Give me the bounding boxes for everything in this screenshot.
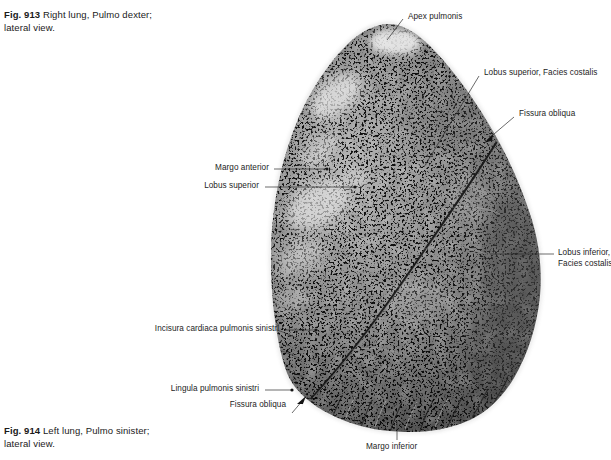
label-margo-anterior: Margo anterior	[151, 163, 269, 174]
figure-title-914: Left lung, Pulmo sinister;	[43, 425, 150, 436]
label-lobus-superior: Lobus superior	[141, 181, 259, 192]
label-lobus-superior-facies-costalis: Lobus superior, Facies costalis	[484, 68, 598, 79]
label-lobus-inferior-line1: Lobus inferior,	[558, 248, 611, 259]
figure-caption-top: Fig. 913 Right lung, Pulmo dexter; later…	[4, 8, 152, 34]
figure-title-913: Right lung, Pulmo dexter;	[43, 9, 152, 20]
label-lingula-pulmonis-sinistri: Lingula pulmonis sinistri	[160, 384, 259, 395]
figure-number-913: Fig. 913	[4, 9, 40, 20]
label-fissura-obliqua-right: Fissura obliqua	[519, 109, 575, 120]
label-apex-pulmonis: Apex pulmonis	[408, 12, 462, 23]
label-lobus-inferior-facies-costalis: Lobus inferior, Facies costalis	[558, 248, 611, 269]
anatomy-figure-plate: Fig. 913 Right lung, Pulmo dexter; later…	[0, 0, 611, 460]
figure-caption-bottom: Fig. 914 Left lung, Pulmo sinister; late…	[4, 424, 150, 450]
label-fissura-obliqua-bottom: Fissura obliqua	[216, 400, 286, 411]
figure-number-914: Fig. 914	[4, 425, 40, 436]
label-lobus-inferior-line2: Facies costalis	[558, 259, 611, 270]
label-incisura-cardiaca-pulmonis-sinistri: Incisura cardiaca pulmonis sinistri	[131, 324, 279, 335]
label-margo-inferior: Margo inferior	[366, 442, 417, 453]
figure-subtitle-914: lateral view.	[4, 437, 150, 450]
figure-subtitle-913: lateral view.	[4, 21, 152, 34]
arrowhead-fissura-obliqua-bottom	[297, 396, 306, 409]
